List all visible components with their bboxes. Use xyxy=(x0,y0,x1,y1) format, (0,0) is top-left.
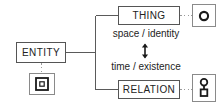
node-entity-label: ENTITY xyxy=(22,48,60,58)
node-relation-label: RELATION xyxy=(123,85,175,95)
node-relation[interactable]: RELATION xyxy=(118,80,180,99)
ring-circle-icon xyxy=(198,10,210,22)
square-in-square-icon xyxy=(35,77,49,91)
node-thing-label: THING xyxy=(132,11,165,21)
diagram-canvas: ENTITY THING RELATION space / identity t… xyxy=(0,0,224,106)
node-thing[interactable]: THING xyxy=(118,6,180,25)
node-entity[interactable]: ENTITY xyxy=(16,42,66,63)
label-space-identity: space / identity xyxy=(100,28,192,39)
entity-icon-box[interactable] xyxy=(29,73,55,95)
vertical-double-arrow-icon xyxy=(138,43,152,59)
relation-icon-box[interactable] xyxy=(192,74,216,102)
circle-over-square-icon xyxy=(197,77,211,99)
thing-icon-box[interactable] xyxy=(192,4,216,27)
label-time-existence: time / existence xyxy=(100,61,192,72)
